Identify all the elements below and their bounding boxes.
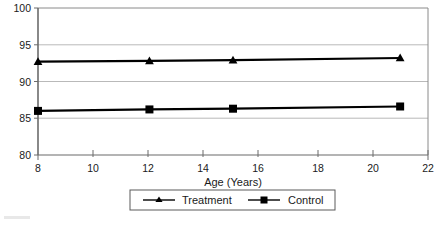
chart-canvas: 100 95 90 85 80 8 10 12 14 16 18 20 22 A… <box>0 0 439 226</box>
x-axis-title: Age (Years) <box>204 176 262 188</box>
y-tick-label-80: 80 <box>19 149 31 161</box>
y-tick-label-100: 100 <box>13 2 31 14</box>
data-point-marker <box>34 107 42 115</box>
x-tick-label-14: 14 <box>197 162 209 174</box>
x-tick-label-20: 20 <box>367 162 379 174</box>
legend-label-treatment: Treatment <box>182 194 232 206</box>
y-tick-label-85: 85 <box>19 112 31 124</box>
x-tick-label-16: 16 <box>252 162 264 174</box>
data-point-marker <box>229 105 237 113</box>
y-tick-label-95: 95 <box>19 39 31 51</box>
data-point-marker <box>145 105 153 113</box>
x-tick-label-10: 10 <box>87 162 99 174</box>
y-tick-label-90: 90 <box>19 76 31 88</box>
x-tick-label-12: 12 <box>142 162 154 174</box>
x-tick-label-22: 22 <box>422 162 434 174</box>
legend-label-control: Control <box>288 194 323 206</box>
line-chart: 100 95 90 85 80 8 10 12 14 16 18 20 22 A… <box>0 0 439 226</box>
page-edge-artifact <box>4 216 30 219</box>
data-point-marker <box>396 102 404 110</box>
chart-legend: Treatment Control <box>130 190 335 210</box>
x-tick-label-18: 18 <box>312 162 324 174</box>
x-tick-label-8: 8 <box>35 162 41 174</box>
square-marker-icon <box>261 197 268 204</box>
